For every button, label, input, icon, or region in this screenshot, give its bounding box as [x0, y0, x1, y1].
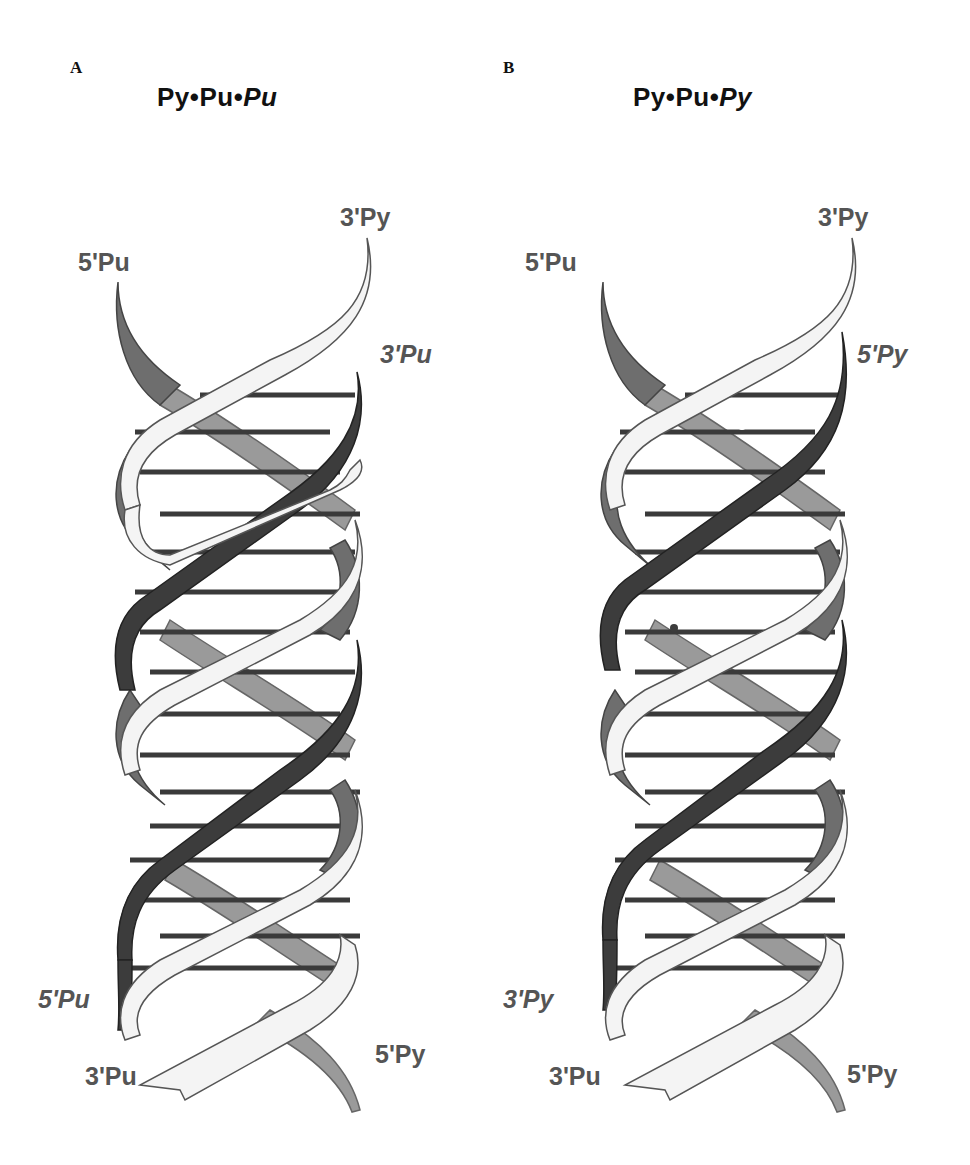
- label-3prime-py-top: 3'Py: [340, 203, 390, 232]
- label-5prime-py-bottom: 5'Py: [375, 1040, 425, 1069]
- label-5prime-pu-top: 5'Pu: [78, 248, 130, 277]
- label-3prime-pu-bottom: 3'Pu: [85, 1062, 137, 1091]
- dot-marker: [670, 624, 678, 632]
- label-third-strand-bottom: 3'Py: [503, 985, 553, 1014]
- label-third-strand-bottom: 5'Pu: [38, 985, 90, 1014]
- label-third-strand-top: 5'Py: [857, 340, 907, 369]
- label-third-strand-top: 3'Pu: [380, 340, 432, 369]
- panel-a: A Py•Pu•Pu: [0, 0, 485, 1165]
- label-5prime-py-bottom: 5'Py: [847, 1060, 897, 1089]
- label-3prime-py-top: 3'Py: [818, 203, 868, 232]
- label-5prime-pu-top: 5'Pu: [525, 248, 577, 277]
- panel-b: B Py•Pu•Py: [485, 0, 970, 1165]
- dot-marker: [723, 829, 731, 837]
- triple-helix-diagram: [485, 0, 970, 1165]
- dot-marker: [738, 422, 746, 430]
- label-3prime-pu-bottom: 3'Pu: [549, 1062, 601, 1091]
